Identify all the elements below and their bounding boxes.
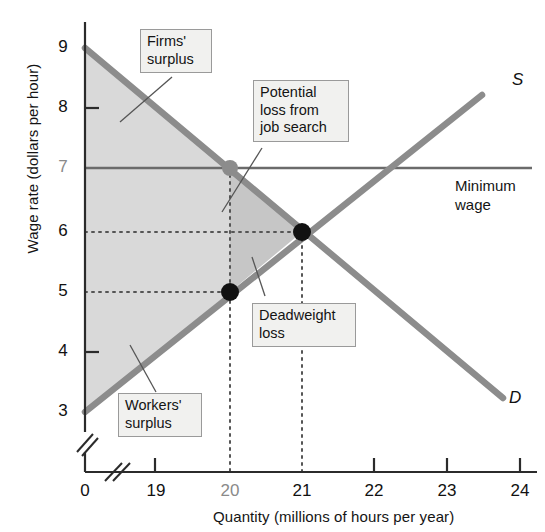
minimum-wage-label: Minimum wage <box>455 177 516 215</box>
x-tick-label-24: 24 <box>505 481 535 501</box>
x-tick-label-20: 20 <box>215 481 245 501</box>
x-tick-label-0: 0 <box>74 481 96 501</box>
deadweight-loss-region <box>230 168 302 292</box>
supply-curve-label: S <box>512 70 523 90</box>
callout-firms-surplus: Firms' surplus <box>140 29 212 73</box>
callout-workers-surplus: Workers' surplus <box>118 393 202 437</box>
y-tick-label-4: 4 <box>52 341 74 361</box>
y-axis-break-icon <box>77 434 98 456</box>
demand-curve-label: D <box>509 388 521 408</box>
point-gray-q20-w7 <box>222 160 238 176</box>
workers-surplus-region <box>85 168 230 412</box>
x-tick-label-21: 21 <box>287 481 317 501</box>
point-black-q20-w5 <box>221 283 239 301</box>
y-tick-label-6: 6 <box>52 221 74 241</box>
y-axis-title: Wage rate (dollars per hour) <box>24 44 41 274</box>
x-axis-title: Quantity (millions of hours per year) <box>213 508 454 525</box>
y-tick-label-8: 8 <box>52 97 74 117</box>
y-tick-label-7: 7 <box>52 157 74 177</box>
callout-potential-loss: Potential loss from job search <box>253 80 349 142</box>
x-tick-marks <box>155 458 520 472</box>
point-black-q21-w6 <box>293 223 311 241</box>
minimum-wage-chart: Wage rate (dollars per hour) Quantity (m… <box>0 0 545 532</box>
y-tick-label-5: 5 <box>52 281 74 301</box>
y-tick-label-9: 9 <box>52 37 74 57</box>
y-tick-label-3: 3 <box>52 401 74 421</box>
x-tick-label-19: 19 <box>141 481 171 501</box>
x-tick-label-22: 22 <box>359 481 389 501</box>
callout-deadweight-loss: Deadweight loss <box>252 303 356 347</box>
x-tick-label-23: 23 <box>432 481 462 501</box>
